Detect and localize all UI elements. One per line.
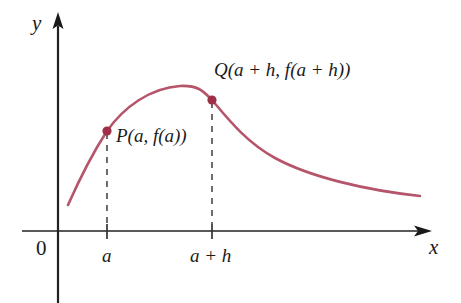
tick-label-a-plus-h: a + h	[190, 246, 231, 265]
x-axis-label: x	[429, 237, 438, 258]
tick-label-a: a	[102, 246, 112, 265]
origin-label: 0	[36, 238, 47, 259]
function-curve-diagram: y x 0 a a + h P(a, f(a)) Q(a + h, f(a + …	[0, 0, 461, 303]
point-marker-q	[207, 95, 216, 104]
point-marker-p	[102, 126, 111, 135]
point-label-p: P(a, f(a))	[116, 126, 187, 145]
y-axis-label: y	[32, 13, 41, 34]
point-label-q: Q(a + h, f(a + h))	[214, 60, 350, 79]
